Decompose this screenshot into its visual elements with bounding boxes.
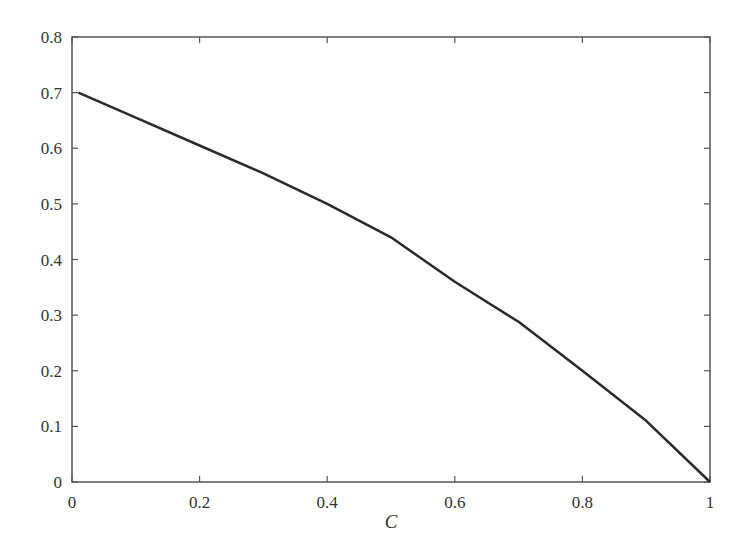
line-chart: 00.20.40.60.81 00.10.20.30.40.50.60.70.8… [0,0,749,551]
y-tick-label: 0.4 [41,251,63,270]
y-tick-label: 0.8 [41,28,62,47]
y-tick-label: 0.3 [41,306,62,325]
x-tick-label: 0.4 [317,493,339,512]
y-tick-label: 0.6 [41,139,62,158]
y-axis-ticks [72,37,710,482]
x-tick-label: 0.8 [572,493,593,512]
x-axis-label: C [385,511,398,532]
x-tick-label: 0.2 [189,493,210,512]
x-axis-ticks [72,37,710,482]
y-tick-label: 0.7 [41,84,63,103]
x-tick-label: 0.6 [444,493,465,512]
y-axis-tick-labels: 00.10.20.30.40.50.60.70.8 [41,28,63,492]
x-tick-label: 1 [706,493,715,512]
y-tick-label: 0.5 [41,195,62,214]
y-tick-label: 0 [54,473,63,492]
data-line [78,93,710,482]
x-axis-tick-labels: 00.20.40.60.81 [68,493,715,512]
plot-frame [72,37,710,482]
y-tick-label: 0.1 [41,417,62,436]
x-tick-label: 0 [68,493,77,512]
y-tick-label: 0.2 [41,362,62,381]
